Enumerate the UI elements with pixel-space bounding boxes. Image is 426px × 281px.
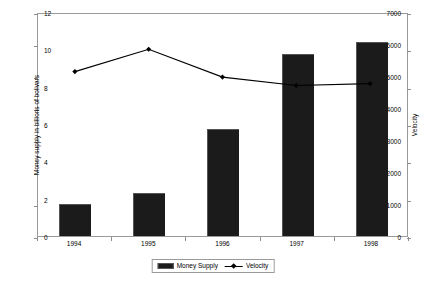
x-tick	[260, 237, 261, 241]
legend-label: Velocity	[246, 262, 268, 270]
x-tick-label-1995: 1995	[141, 240, 155, 248]
x-tick	[408, 237, 409, 241]
chart-legend: Money SupplyVelocity	[152, 259, 275, 273]
x-tick-label-1997: 1997	[289, 240, 303, 248]
velocity-marker-1995	[146, 47, 151, 52]
legend-line-diamond-icon	[225, 263, 243, 270]
velocity-marker-1997	[294, 83, 299, 88]
x-tick	[37, 237, 38, 241]
x-tick-label-1998: 1998	[364, 240, 378, 248]
x-tick	[334, 237, 335, 241]
chart-container: 01000200030004000500060007000 024681012 …	[0, 0, 426, 281]
x-axis: 19941995199619971998	[37, 240, 408, 252]
y-axis-right-title: Velocity	[411, 114, 418, 136]
velocity-marker-1996	[220, 75, 225, 80]
x-tick	[111, 237, 112, 241]
x-tick-label-1996: 1996	[215, 240, 229, 248]
legend-entry-money-supply[interactable]: Money Supply	[158, 262, 218, 270]
legend-label: Money Supply	[177, 262, 218, 270]
x-tick	[185, 237, 186, 241]
line-series-velocity	[38, 14, 407, 237]
velocity-marker-1994	[72, 69, 77, 74]
legend-entry-velocity[interactable]: Velocity	[225, 262, 268, 270]
velocity-line-path	[75, 49, 370, 85]
plot-area: 01000200030004000500060007000 024681012 …	[37, 13, 408, 237]
velocity-marker-1998	[367, 81, 372, 86]
legend-bar-swatch-icon	[158, 263, 174, 269]
x-tick-label-1994: 1994	[67, 240, 81, 248]
